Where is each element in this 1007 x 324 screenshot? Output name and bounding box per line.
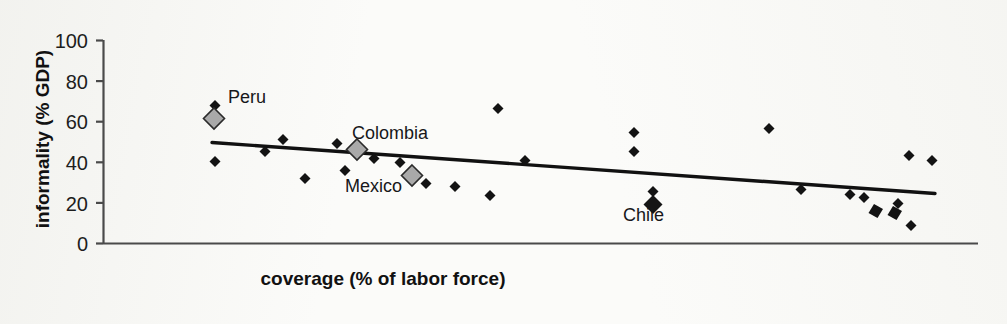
highlight-marker-peru	[204, 108, 225, 129]
data-point	[904, 150, 915, 161]
data-point	[629, 146, 640, 157]
y-axis-ticks	[96, 41, 103, 244]
data-points-group	[210, 100, 938, 231]
data-point	[485, 190, 496, 201]
data-point	[927, 155, 938, 166]
highlighted-points-group	[204, 108, 663, 214]
data-point	[278, 134, 289, 145]
scatter-chart-figure: 100 80 60 40 20 0 Peru Colombia Mexico C…	[0, 0, 1007, 324]
annotation-colombia: Colombia	[352, 124, 428, 142]
data-point	[859, 192, 870, 203]
trendline	[212, 143, 935, 194]
data-point	[764, 123, 775, 134]
data-point	[888, 206, 903, 220]
data-point	[332, 138, 343, 149]
data-point	[450, 181, 461, 192]
data-point	[395, 157, 406, 168]
x-axis-title: coverage (% of labor force)	[103, 268, 663, 290]
trendline-group	[212, 143, 935, 194]
data-point	[869, 204, 884, 218]
data-point	[845, 189, 856, 200]
axes-group	[103, 40, 978, 244]
annotation-peru: Peru	[228, 88, 266, 106]
annotation-mexico: Mexico	[345, 177, 402, 195]
highlight-marker-mexico	[402, 165, 423, 186]
annotation-chile: Chile	[623, 206, 664, 224]
y-axis-title: informality (% GDP)	[32, 24, 54, 254]
data-point	[493, 103, 504, 114]
data-point	[300, 173, 311, 184]
data-point	[210, 156, 221, 167]
data-point	[340, 165, 351, 176]
data-point	[421, 178, 432, 189]
data-point	[629, 127, 640, 138]
data-point	[906, 220, 917, 231]
